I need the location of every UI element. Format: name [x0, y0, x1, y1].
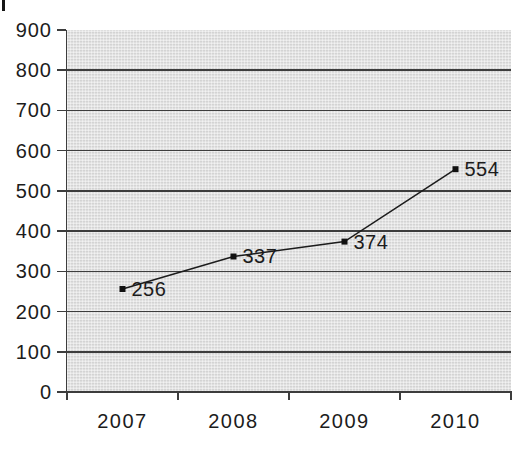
data-point-label: 256 [132, 277, 167, 301]
y-tick-label: 300 [0, 259, 52, 283]
data-point-marker [120, 286, 126, 292]
y-tick-label: 0 [0, 380, 52, 404]
data-point-label: 337 [243, 244, 278, 268]
y-tick-label: 500 [0, 179, 52, 203]
x-tick-mark [66, 393, 68, 400]
y-tick-label: 900 [0, 18, 52, 42]
y-tick-label: 800 [0, 58, 52, 82]
y-tick-label: 600 [0, 139, 52, 163]
y-axis-line [66, 30, 68, 399]
x-tick-mark [177, 393, 179, 400]
x-tick-label: 2009 [300, 409, 390, 433]
page-crop-artifact [2, 0, 5, 11]
y-tick-label: 100 [0, 340, 52, 364]
data-point-label: 554 [465, 157, 500, 181]
data-series-line [67, 30, 511, 392]
data-point-label: 374 [354, 230, 389, 254]
line-chart-figure: 0100200300400500600700800900 25633737455… [0, 0, 526, 456]
x-tick-mark [399, 393, 401, 400]
y-tick-label: 700 [0, 98, 52, 122]
x-tick-label: 2008 [189, 409, 279, 433]
y-tick-label: 400 [0, 219, 52, 243]
data-point-marker [342, 239, 348, 245]
series-polyline [123, 169, 456, 289]
data-point-marker [231, 254, 237, 260]
x-tick-label: 2007 [78, 409, 168, 433]
data-point-marker [453, 166, 459, 172]
x-tick-mark [510, 393, 512, 400]
x-tick-mark [288, 393, 290, 400]
plot-area: 256337374554 [67, 30, 511, 392]
y-tick-label: 200 [0, 300, 52, 324]
x-tick-label: 2010 [411, 409, 501, 433]
